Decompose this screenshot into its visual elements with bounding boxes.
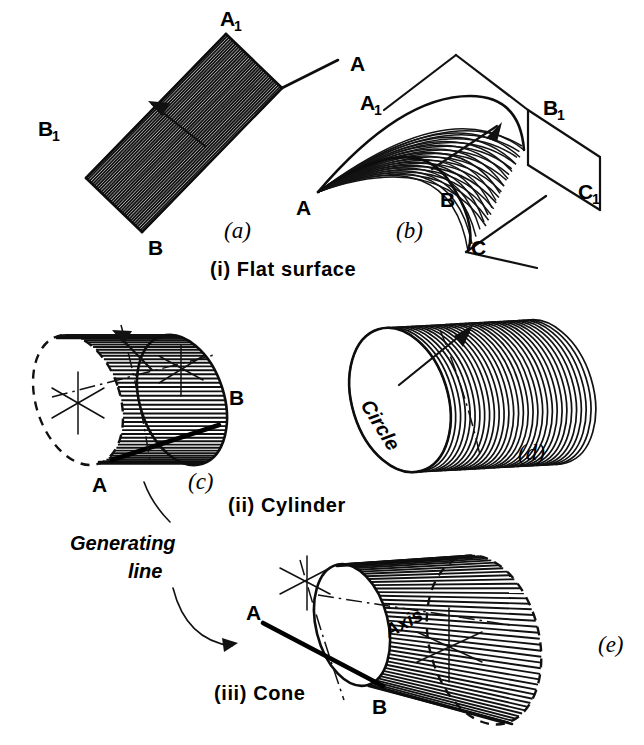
caption-b: (b) xyxy=(396,218,423,243)
label-b1: B xyxy=(543,96,558,119)
label-b-bottom: B xyxy=(148,236,163,259)
label-c1-sub: 1 xyxy=(592,191,600,207)
label-a-right: A xyxy=(350,52,365,75)
label-a1: A xyxy=(360,91,375,114)
section-label-flat-surface: (i) Flat surface xyxy=(210,258,356,280)
section-label-cone: (iii) Cone xyxy=(214,682,306,704)
caption-d: (d) xyxy=(518,440,545,465)
generating-line-text-1: Generating xyxy=(70,532,176,554)
label-a1-top-sub: 1 xyxy=(234,18,242,34)
technical-figure: A 1 A B 1 B (a) xyxy=(0,0,644,745)
caption-a: (a) xyxy=(224,218,251,243)
section-label-cylinder: (ii) Cylinder xyxy=(228,494,346,516)
label-a-apex: A xyxy=(296,196,311,219)
label-b1-sub: 1 xyxy=(557,107,565,123)
label-b: B xyxy=(440,188,455,211)
label-c: C xyxy=(471,236,486,259)
generating-line-text-2: line xyxy=(128,560,162,582)
label-b1-left: B xyxy=(38,117,53,140)
label-e-point-a: A xyxy=(246,601,261,624)
label-e-point-b: B xyxy=(372,695,387,718)
label-a1-top: A xyxy=(220,7,235,30)
caption-e: (e) xyxy=(598,632,624,657)
caption-c: (c) xyxy=(188,469,214,494)
label-c-point-b: B xyxy=(229,386,244,409)
label-a1-sub: 1 xyxy=(374,102,382,118)
label-b1-left-sub: 1 xyxy=(52,128,60,144)
label-c1: C xyxy=(578,180,593,203)
label-c-point-a: A xyxy=(92,473,107,496)
figure-root: A 1 A B 1 B (a) xyxy=(0,0,644,745)
generating-line xyxy=(378,592,524,593)
